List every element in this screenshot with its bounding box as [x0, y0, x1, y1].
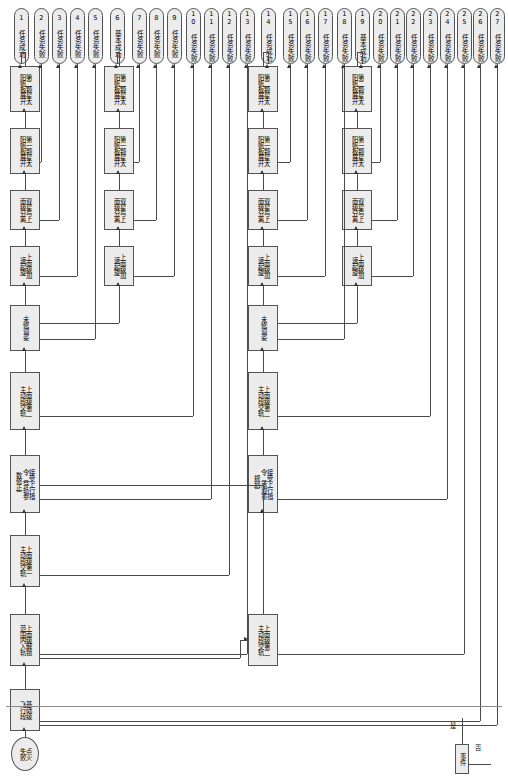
legend: 事件是否 — [0, 0, 508, 782]
legend-event-label: 事件 — [459, 753, 465, 765]
legend-event-box: 事件 — [455, 744, 469, 774]
legend-yes-label: 是 — [449, 722, 455, 728]
legend-yes-text: 是 — [449, 722, 455, 728]
legend-no-text: 否 — [474, 744, 480, 750]
legend-no-label: 否 — [474, 744, 480, 750]
legend-frame — [6, 706, 502, 708]
flowchart-canvas: 1 任务成功2 任务失败3 任务失败4 任务失败5 任务失败6 基本成功7 任务… — [0, 0, 508, 782]
